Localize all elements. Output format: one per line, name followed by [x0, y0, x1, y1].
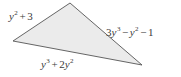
left-operator: +	[18, 10, 27, 22]
side-label-left: y2+3	[9, 11, 33, 22]
left-constant: 3	[27, 10, 33, 22]
triangle-figure: y2+3 3y3−y2−1 y3+2y2	[0, 0, 181, 77]
bottom-operator: +	[50, 58, 59, 70]
right-operator-1: −	[121, 26, 130, 38]
side-label-right: 3y3−y2−1	[106, 27, 154, 38]
side-label-bottom: y3+2y2	[41, 59, 74, 70]
bottom-term2-exponent: 2	[70, 57, 74, 65]
right-operator-2: −	[139, 26, 148, 38]
right-term1-exponent: 3	[117, 25, 121, 33]
right-term1-base: y	[112, 26, 117, 38]
right-constant: 1	[148, 26, 154, 38]
